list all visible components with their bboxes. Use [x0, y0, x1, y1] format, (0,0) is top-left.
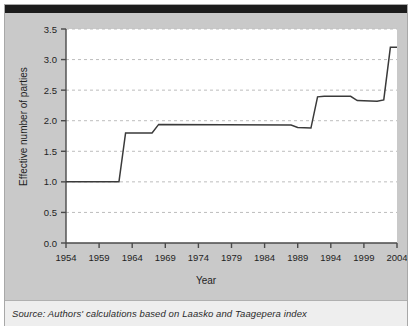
x-tick-label: 1984 — [254, 252, 275, 263]
y-tick-label: 0.0 — [44, 238, 57, 249]
source-caption-bar: Source: Authors' calculations based on L… — [5, 300, 407, 326]
x-tick-label: 1964 — [122, 252, 143, 263]
source-caption-text: Source: Authors' calculations based on L… — [5, 308, 307, 319]
y-tick-label: 1.5 — [44, 146, 57, 157]
x-tick-label: 1974 — [188, 252, 209, 263]
x-tick-label: 2004 — [386, 252, 407, 263]
y-tick-label: 2.5 — [44, 85, 57, 96]
y-axis-title: Effective number of parties — [18, 47, 29, 207]
figure-container: 0.00.51.01.52.02.53.03.51954195919641969… — [0, 0, 412, 331]
y-tick-label: 0.5 — [44, 207, 57, 218]
y-tick-label: 3.5 — [44, 24, 57, 35]
y-tick-label: 1.0 — [44, 176, 57, 187]
x-axis-title: Year — [5, 275, 407, 286]
x-tick-label: 1994 — [320, 252, 341, 263]
x-tick-label: 1989 — [287, 252, 308, 263]
x-tick-label: 1979 — [221, 252, 242, 263]
x-tick-label: 1969 — [155, 252, 176, 263]
plot-background — [66, 29, 397, 243]
y-tick-label: 3.0 — [44, 54, 57, 65]
line-chart: 0.00.51.01.52.02.53.03.51954195919641969… — [5, 13, 407, 296]
x-tick-label: 1999 — [353, 252, 374, 263]
chart-area: 0.00.51.01.52.02.53.03.51954195919641969… — [5, 13, 407, 296]
top-rule-bar — [5, 5, 407, 13]
x-tick-label: 1954 — [55, 252, 76, 263]
y-tick-label: 2.0 — [44, 115, 57, 126]
x-tick-label: 1959 — [89, 252, 110, 263]
plot-wrapper: 0.00.51.01.52.02.53.03.51954195919641969… — [5, 13, 407, 296]
